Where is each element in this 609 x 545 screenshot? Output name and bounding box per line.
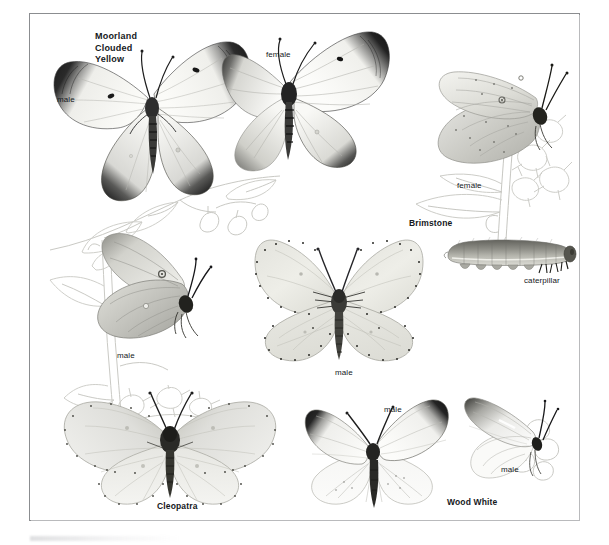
label-wood-white-male-open: male [384,405,402,414]
title-moorland-clouded-yellow: Moorland Clouded Yellow [95,31,137,66]
label-mcy-male-upper: male [57,95,75,104]
figure-moorland-clouded-yellow-male-underside [76,228,216,353]
illustration-plate: Moorland Clouded Yellow Brimstone Cleopa… [0,0,609,545]
label-brimstone-caterpillar: caterpillar [524,276,560,285]
title-line-3: Yellow [95,54,137,66]
figure-wood-white-male-upperside [300,398,460,518]
label-mcy-female-upper: female [266,50,291,59]
figure-wood-white-male-underside [455,390,565,490]
figure-brimstone-male-upperside [243,228,433,373]
title-wood-white: Wood White [447,498,497,507]
label-mcy-female-resting: female [457,181,482,190]
label-brimstone-male: male [335,368,353,377]
scan-edge-artifact [30,536,180,541]
title-line-1: Moorland [95,31,137,43]
figure-moorland-clouded-yellow-female-upperside [222,24,422,184]
figure-brimstone-caterpillar [442,234,582,276]
figure-moorland-clouded-yellow-female-underside [420,38,580,188]
title-cleopatra: Cleopatra [157,502,198,511]
label-mcy-male-resting: male [117,351,135,360]
label-wood-white-male-resting: male [501,465,519,474]
title-line-2: Clouded [95,43,137,55]
figure-cleopatra-male-upperside [55,392,285,512]
title-brimstone: Brimstone [409,219,452,228]
